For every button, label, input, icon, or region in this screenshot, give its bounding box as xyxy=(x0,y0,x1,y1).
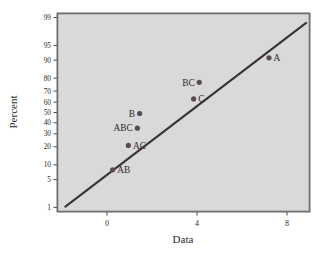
data-point-ABC xyxy=(135,126,140,131)
data-point-BC xyxy=(197,80,202,85)
x-tick-label-4: 4 xyxy=(195,219,199,228)
y-tick-label-95: 95 xyxy=(44,41,52,50)
y-tick-label-60: 60 xyxy=(44,98,52,107)
data-point-label-AB: AB xyxy=(117,165,130,175)
y-tick-label-10: 10 xyxy=(44,160,52,169)
y-tick-label-5: 5 xyxy=(47,175,51,184)
y-tick-label-50: 50 xyxy=(44,108,52,117)
data-point-AB xyxy=(110,167,115,172)
y-tick-label-99: 99 xyxy=(44,13,52,22)
data-point-B xyxy=(137,111,142,116)
data-point-label-BC: BC xyxy=(182,78,195,88)
y-axis-title: Percent xyxy=(7,96,19,129)
data-point-AC xyxy=(126,143,131,148)
y-tick-label-20: 20 xyxy=(44,142,52,151)
y-tick-label-90: 90 xyxy=(44,56,52,65)
data-point-C xyxy=(191,96,196,101)
data-point-label-C: C xyxy=(198,94,204,104)
data-point-label-AC: AC xyxy=(133,141,146,151)
x-tick-label-8: 8 xyxy=(285,219,289,228)
x-axis-title: Data xyxy=(173,233,194,245)
data-point-label-ABC: ABC xyxy=(114,123,133,133)
plot-area-frame xyxy=(58,14,310,212)
x-tick-label-0: 0 xyxy=(105,219,109,228)
y-tick-label-1: 1 xyxy=(47,203,51,212)
y-tick-label-40: 40 xyxy=(44,118,52,127)
y-tick-label-30: 30 xyxy=(44,129,52,138)
probability-plot-svg: ABACABCBCBCA 151020304050607080909599 04… xyxy=(0,0,324,254)
probability-plot-figure: ABACABCBCBCA 151020304050607080909599 04… xyxy=(0,0,324,254)
y-tick-label-70: 70 xyxy=(44,87,52,96)
data-point-label-A: A xyxy=(274,53,281,63)
y-tick-label-80: 80 xyxy=(44,74,52,83)
data-point-label-B: B xyxy=(129,109,135,119)
data-point-A xyxy=(266,55,271,60)
